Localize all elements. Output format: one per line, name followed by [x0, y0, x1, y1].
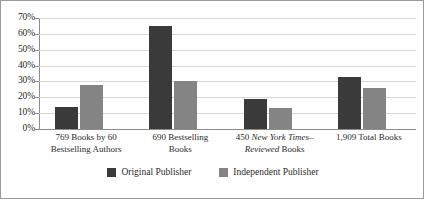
y-axis-tick-label: 60% [1, 29, 35, 39]
y-axis-tick-mark [35, 66, 39, 67]
y-axis-tick-label: 30% [1, 76, 35, 86]
y-axis-tick-mark [35, 18, 39, 19]
y-axis-tick-mark [35, 113, 39, 114]
legend-item: Original Publisher [107, 167, 191, 177]
x-axis-category-label: 1,909 Total Books [310, 132, 424, 144]
y-axis-tick-label: 10% [1, 108, 35, 118]
bar-independent-publisher [269, 108, 292, 129]
y-axis-tick-mark [35, 97, 39, 98]
bar-original-publisher [149, 26, 172, 129]
chart-figure: 70%60%50%40%30%20%10%0% 769 Books by 60B… [0, 0, 424, 199]
y-axis-tick-label: 50% [1, 45, 35, 55]
bar-original-publisher [55, 107, 78, 129]
bar-independent-publisher [174, 81, 197, 129]
x-axis-category-labels: 769 Books by 60Bestselling Authors690 Be… [39, 132, 416, 158]
legend-label: Independent Publisher [233, 167, 318, 177]
legend-item: Independent Publisher [219, 167, 318, 177]
y-axis-tick-label: 20% [1, 92, 35, 102]
bar-original-publisher [244, 99, 267, 129]
legend-swatch-icon [219, 168, 228, 177]
bar-group [133, 18, 227, 129]
bar-original-publisher [338, 77, 361, 129]
bar-group [228, 18, 322, 129]
y-axis-tick-mark [35, 81, 39, 82]
bar-group [39, 18, 133, 129]
y-axis-tick-label: 70% [1, 13, 35, 23]
bar-independent-publisher [363, 88, 386, 129]
category-label-line: 1,909 Total Books [310, 132, 424, 144]
bar-group [322, 18, 416, 129]
category-label-line: Reviewed Books [216, 144, 334, 156]
y-axis-tick-mark [35, 129, 39, 130]
bar-independent-publisher [80, 85, 103, 129]
legend-label: Original Publisher [121, 167, 191, 177]
y-axis-tick-label: 40% [1, 61, 35, 71]
x-axis-baseline [39, 129, 416, 130]
y-axis-tick-mark [35, 34, 39, 35]
y-axis-tick-mark [35, 50, 39, 51]
plot-area [39, 18, 416, 129]
legend-swatch-icon [107, 168, 116, 177]
chart-legend: Original PublisherIndependent Publisher [1, 167, 424, 177]
